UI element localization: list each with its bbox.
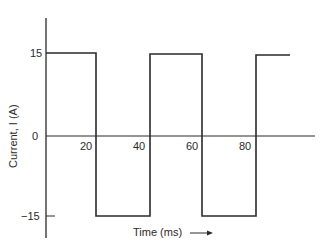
y-tick-label-0: 0: [32, 130, 38, 142]
x-tick-label-60: 60: [186, 140, 198, 152]
y-tick-label-neg15: −15: [21, 210, 40, 222]
x-tick-label-40: 40: [133, 140, 145, 152]
square-wave-series: [46, 53, 290, 216]
right-arrow-icon: [207, 231, 213, 236]
x-tick-label-80: 80: [239, 140, 251, 152]
square-wave-chart: 15 0 −15 20 40 60 80 Current, I (A) Time…: [0, 0, 323, 244]
y-tick-label-15: 15: [30, 47, 42, 59]
x-axis-title: Time (ms): [133, 226, 182, 238]
y-axis-title: Current, I (A): [7, 104, 19, 168]
x-tick-label-20: 20: [80, 140, 92, 152]
